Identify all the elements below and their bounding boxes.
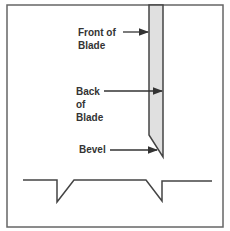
- label-line: Blade: [76, 111, 103, 124]
- label-front-of-blade: Front of Blade: [78, 26, 116, 52]
- label-line: Back: [76, 85, 103, 98]
- blade: [149, 5, 163, 157]
- label-line: Front of: [78, 26, 116, 39]
- label-bevel: Bevel: [79, 143, 106, 156]
- label-line: of: [76, 98, 103, 111]
- cut-profile: [23, 180, 212, 202]
- label-back-of-blade: Back of Blade: [76, 85, 103, 124]
- label-line: Blade: [78, 39, 116, 52]
